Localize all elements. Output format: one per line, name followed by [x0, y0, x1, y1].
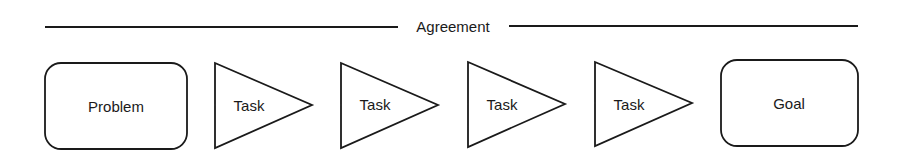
- problem-label: Problem: [88, 98, 144, 115]
- task-label-3: Task: [487, 96, 518, 113]
- agreement-label: Agreement: [412, 18, 493, 35]
- goal-label: Goal: [773, 95, 805, 112]
- task-label-4: Task: [614, 96, 645, 113]
- task-label-1: Task: [234, 97, 265, 114]
- task-label-2: Task: [360, 96, 391, 113]
